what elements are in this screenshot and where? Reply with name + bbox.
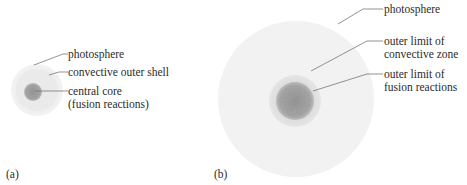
- panel-tag-b: (b): [214, 168, 227, 180]
- leader-photosphere-a: [34, 54, 68, 65]
- panel-tag-a: (a): [6, 168, 19, 180]
- label-convective-limit-b-2: convective zone: [384, 48, 458, 61]
- label-convective-limit-b-1: outer limit of: [384, 35, 445, 48]
- label-photosphere-b: photosphere: [384, 3, 440, 16]
- leader-photosphere-b: [338, 9, 383, 24]
- label-fusion-limit-b-1: outer limit of: [384, 68, 445, 81]
- panel-a-star: [11, 54, 68, 116]
- label-photosphere-a: photosphere: [68, 48, 124, 61]
- label-fusion-limit-b-2: fusion reactions: [384, 81, 457, 94]
- label-central-core-a: central core: [68, 85, 122, 98]
- label-fusion-reactions-a: (fusion reactions): [68, 98, 149, 111]
- panel-b-star: [218, 9, 383, 177]
- label-convective-shell-a: convective outer shell: [68, 66, 169, 79]
